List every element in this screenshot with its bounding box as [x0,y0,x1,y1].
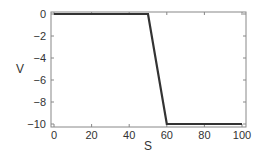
y-tick-label: −6 [33,74,46,86]
x-axis-label: S [144,139,152,153]
y-axis-ticks: 0−2−4−6−8−10 [27,8,246,130]
y-tick-label: −8 [33,96,46,108]
x-tick-label: 40 [123,129,135,141]
y-tick-label: −2 [33,30,46,42]
x-tick-label: 20 [85,129,97,141]
x-tick-label: 60 [161,129,173,141]
y-axis-label: V [16,62,24,76]
y-tick-label: 0 [40,8,46,20]
y-tick-label: −10 [27,118,46,130]
y-tick-label: −4 [33,52,46,64]
x-tick-label: 80 [198,129,210,141]
x-tick-label: 100 [233,129,251,141]
chart: 020406080100 0−2−4−6−8−10 S V [0,0,259,155]
data-series [54,14,242,124]
plot-frame [51,12,246,127]
series-line [54,14,242,124]
x-tick-label: 0 [51,129,57,141]
